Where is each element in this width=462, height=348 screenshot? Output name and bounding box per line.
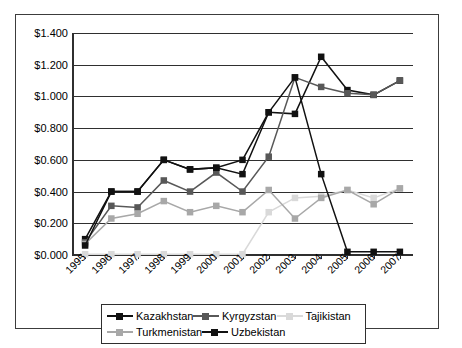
data-point-marker: [82, 242, 89, 249]
data-point-marker: [108, 203, 115, 210]
legend-key-icon: [277, 310, 303, 322]
legend-key-icon: [107, 326, 133, 338]
y-axis-tick-label: $1.000: [16, 90, 68, 102]
data-point-marker: [187, 188, 194, 195]
y-axis-tick-label: $0.200: [16, 217, 68, 229]
data-point-marker: [292, 111, 299, 118]
series-tajikistan: [82, 185, 403, 257]
y-axis-tick-label: $0.800: [16, 122, 68, 134]
legend-label: Tajikistan: [306, 310, 351, 322]
data-point-marker: [239, 209, 246, 216]
data-point-marker: [239, 171, 246, 178]
legend-row: KazakhstanKyrgyzstanTajikistan: [107, 308, 360, 324]
y-axis-labels: $0.000$0.200$0.400$0.600$0.800$1.000$1.2…: [14, 33, 68, 255]
data-point-marker: [318, 54, 325, 61]
legend-item-kazakhstan[interactable]: Kazakhstan: [107, 310, 193, 322]
data-point-marker: [213, 165, 220, 172]
series-line: [85, 188, 400, 244]
legend-item-turkmenistan[interactable]: Turkmenistan: [107, 326, 202, 338]
series-uzbekistan: [82, 74, 403, 255]
data-point-marker: [292, 74, 299, 81]
data-point-marker: [318, 171, 325, 178]
chart-legend: KazakhstanKyrgyzstanTajikistan Turkmenis…: [101, 304, 366, 344]
legend-label: Turkmenistan: [136, 326, 202, 338]
data-point-marker: [318, 84, 325, 91]
legend-label: Kazakhstan: [136, 310, 193, 322]
data-point-marker: [397, 185, 404, 192]
series-line: [85, 188, 400, 254]
x-axis-labels: 1995199619971998199920002001200220032004…: [72, 259, 413, 305]
data-point-marker: [397, 77, 404, 84]
legend-key-icon: [193, 310, 219, 322]
legend-key-icon: [107, 310, 133, 322]
legend-item-tajikistan[interactable]: Tajikistan: [277, 310, 361, 322]
y-axis-tick-label: $0.600: [16, 154, 68, 166]
legend-label: Kyrgyzstan: [222, 310, 276, 322]
data-point-marker: [265, 187, 272, 194]
data-point-marker: [344, 187, 351, 194]
legend-item-uzbekistan[interactable]: Uzbekistan: [202, 326, 297, 338]
data-point-marker: [161, 177, 168, 184]
legend-item-kyrgyzstan[interactable]: Kyrgyzstan: [193, 310, 277, 322]
chart-frame: $0.000$0.200$0.400$0.600$0.800$1.000$1.2…: [15, 14, 439, 329]
data-point-marker: [370, 92, 377, 99]
legend-row: TurkmenistanUzbekistan: [107, 324, 360, 340]
data-point-marker: [134, 211, 141, 218]
data-point-marker: [265, 209, 272, 216]
series-line: [85, 77, 400, 251]
data-point-marker: [239, 157, 246, 164]
y-axis-tick-label: $0.000: [16, 249, 68, 261]
series-layer: [72, 33, 413, 255]
data-point-marker: [108, 215, 115, 222]
data-point-marker: [318, 195, 325, 202]
data-point-marker: [108, 188, 115, 195]
y-axis-tick-label: $0.400: [16, 186, 68, 198]
data-point-marker: [344, 90, 351, 97]
data-point-marker: [161, 198, 168, 205]
data-point-marker: [265, 153, 272, 160]
data-point-marker: [292, 215, 299, 222]
data-point-marker: [370, 195, 377, 202]
data-point-marker: [213, 203, 220, 210]
data-point-marker: [265, 109, 272, 116]
y-axis-tick-label: $1.400: [16, 27, 68, 39]
data-point-marker: [161, 157, 168, 164]
data-point-marker: [187, 166, 194, 173]
data-point-marker: [292, 195, 299, 202]
legend-label: Uzbekistan: [231, 326, 285, 338]
legend-key-icon: [202, 326, 228, 338]
data-point-marker: [134, 204, 141, 211]
plot-area: [72, 33, 413, 255]
data-point-marker: [239, 188, 246, 195]
data-point-marker: [187, 209, 194, 216]
data-point-marker: [370, 201, 377, 208]
data-point-marker: [134, 188, 141, 195]
y-axis-tick-label: $1.200: [16, 59, 68, 71]
